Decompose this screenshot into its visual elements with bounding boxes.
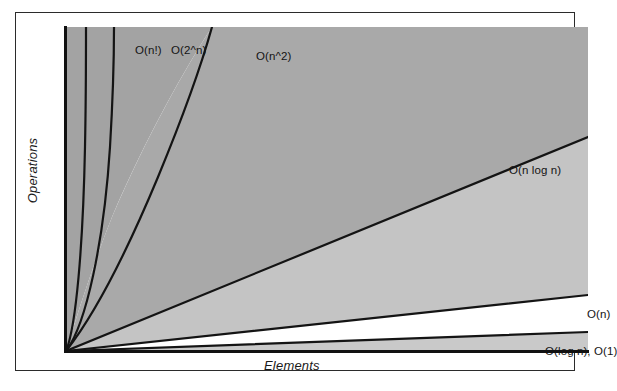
y-axis-title: Operations (25, 138, 40, 204)
plot-area: O(n!) O(2^n) O(n^2) O(n log n) O(n) O(lo… (66, 27, 588, 351)
curve-label-o-n-squared: O(n^2) (256, 50, 291, 62)
x-axis-title: Elements (264, 358, 320, 373)
curve-label-o-n-factorial: O(n!) (135, 44, 162, 56)
curve-label-o-n: O(n) (587, 308, 610, 320)
complexity-curves-svg (66, 27, 588, 351)
curve-label-o-2-power-n: O(2^n) (171, 44, 206, 56)
figure-frame: O(n!) O(2^n) O(n^2) O(n log n) O(n) O(lo… (15, 12, 575, 371)
curve-label-o-n-log-n: O(n log n) (509, 164, 561, 176)
x-axis-line (64, 350, 589, 353)
y-axis-line (64, 26, 67, 353)
